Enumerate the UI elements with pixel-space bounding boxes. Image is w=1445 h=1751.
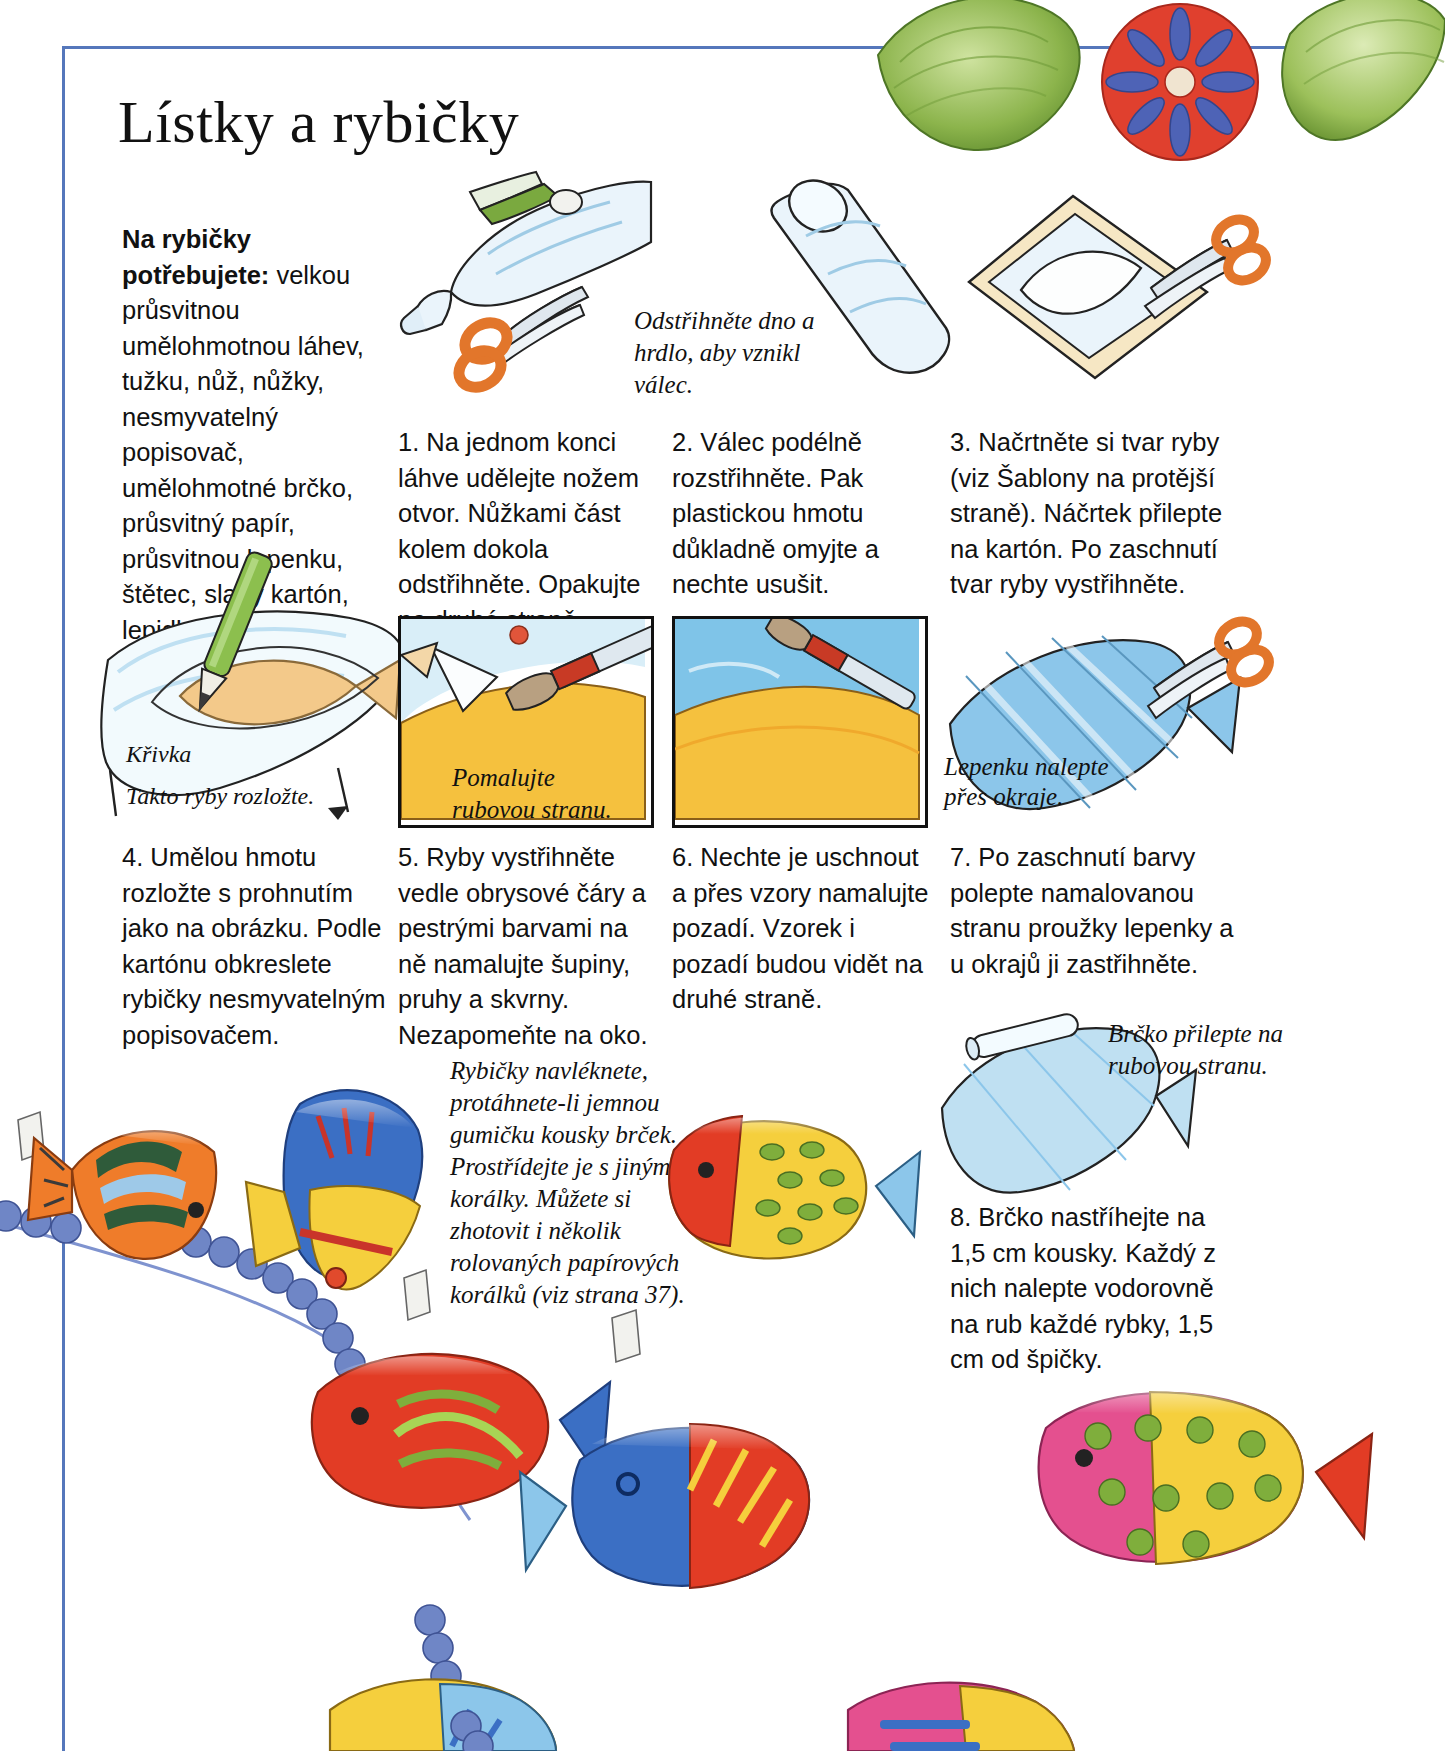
- panel-painting-background: [672, 616, 928, 828]
- step-6-text: 6. Nechte je uschnout a přes vzory namal…: [672, 840, 930, 1018]
- caption-takto: Takto ryby rozložte.: [126, 780, 314, 812]
- fish-pink-dotted: [1039, 1390, 1372, 1564]
- page-title: Lístky a rybičky: [118, 88, 519, 157]
- fish-red-wave: [312, 1354, 610, 1508]
- leaf-beads-illustration: [860, 0, 1445, 175]
- caption-pomalujte: Pomalujte rubovou stranu.: [452, 762, 642, 826]
- materials-heading: Na rybičky potřebujete:: [122, 225, 269, 289]
- book-page: Lístky a rybičky Na rybičky potřebujete:…: [0, 0, 1445, 1751]
- step-1-text: 1. Na jednom konci láhve udělejte nožem …: [398, 425, 656, 638]
- fish-blue-red-striped: [520, 1424, 809, 1588]
- fish-bottom-partial: [330, 1679, 556, 1751]
- step-7-text: 7. Po zaschnutí barvy polepte namalovano…: [950, 840, 1240, 982]
- fish-garland-illustration: [0, 1020, 1445, 1751]
- caption-lepenku: Lepenku nalepte přes okraje.: [944, 752, 1124, 812]
- fish-yellow-spotted: [669, 1116, 920, 1259]
- template-on-card-illustration: [955, 182, 1275, 392]
- cylinder-illustration: [740, 178, 970, 388]
- step-3-text: 3. Načrtněte si tvar ryby (viz Šablony n…: [950, 425, 1235, 603]
- fish-bottom-right-partial: [848, 1683, 1074, 1751]
- step-2-text: 2. Válec podélně rozstřihněte. Pak plast…: [672, 425, 922, 603]
- caption-krivka: Křivka: [126, 738, 191, 770]
- fish-blue-yellow: [246, 1090, 422, 1289]
- bottle-cutting-illustration: [396, 170, 656, 385]
